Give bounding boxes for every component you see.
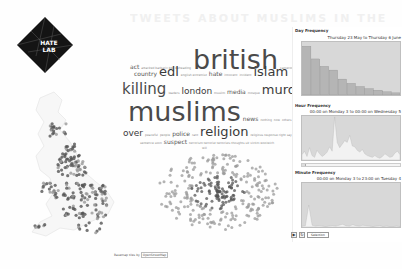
word[interactable]: people bbox=[160, 133, 170, 137]
reset-button[interactable]: ↻ bbox=[299, 232, 305, 238]
word[interactable]: english extremist bbox=[181, 73, 207, 77]
word[interactable]: others bbox=[282, 118, 292, 122]
chart-range: 00:00 on Monday 3 to 00:00 on Wednesday … bbox=[310, 109, 401, 114]
word[interactable]: innocent bbox=[224, 73, 237, 77]
word[interactable]: terrorism terrorist terrorists thoughts … bbox=[189, 141, 274, 145]
play-button[interactable]: ▶ bbox=[291, 232, 297, 238]
word[interactable]: nothing bbox=[260, 118, 271, 122]
word[interactable]: suspect bbox=[164, 138, 187, 145]
chart-title: Day Frequency bbox=[295, 28, 328, 33]
selection-button[interactable]: Selection bbox=[307, 232, 329, 238]
chart-range: Thursday 23 May to Thursday 6 June bbox=[328, 35, 401, 40]
word[interactable]: muslims bbox=[128, 96, 241, 127]
word[interactable]: news bbox=[243, 115, 259, 122]
playback-controls: ▶ ↻ Selection bbox=[291, 232, 329, 238]
word[interactable]: media bbox=[227, 88, 246, 95]
word[interactable]: muslim bbox=[214, 91, 225, 95]
openstreetmap-link[interactable]: OpenStreetMap bbox=[141, 252, 168, 258]
chart-title: Minute Frequency bbox=[295, 170, 335, 175]
word[interactable]: incident bbox=[239, 73, 251, 77]
london-dot-map[interactable] bbox=[140, 150, 290, 250]
word[interactable]: sentence soon bbox=[140, 141, 162, 145]
word[interactable]: peaceful bbox=[145, 133, 158, 137]
slider-handle[interactable] bbox=[302, 164, 306, 166]
word[interactable]: country bbox=[134, 70, 157, 77]
day-frequency-chart: Day Frequency Thursday 23 May to Thursda… bbox=[293, 27, 402, 105]
hour-range-slider[interactable] bbox=[301, 163, 401, 167]
chart-range: 00:00 on Monday 3 to 23:00 on Tuesday 4 bbox=[317, 176, 401, 181]
word[interactable]: mosque bbox=[248, 91, 260, 95]
svg-text:LAB: LAB bbox=[42, 46, 55, 53]
word[interactable]: rant bbox=[192, 133, 198, 137]
word[interactable]: edl bbox=[159, 64, 179, 79]
word[interactable]: now bbox=[274, 118, 280, 122]
page: TWEETS ABOUT MUSLIMS IN THE UK FOLLOWING… bbox=[0, 0, 402, 269]
word[interactable]: hate bbox=[209, 70, 223, 77]
hate-lab-logo[interactable]: HATE LAB bbox=[16, 16, 74, 74]
minute-plot[interactable] bbox=[301, 182, 401, 228]
word[interactable]: leaders bbox=[168, 91, 179, 95]
frequency-panel: Day Frequency Thursday 23 May to Thursda… bbox=[292, 27, 402, 242]
word[interactable]: over bbox=[123, 128, 143, 138]
word[interactable]: police bbox=[172, 130, 190, 137]
hour-plot[interactable] bbox=[301, 115, 401, 161]
word[interactable]: islam bbox=[253, 64, 288, 79]
word[interactable]: will bbox=[202, 146, 207, 150]
hour-frequency-chart: Hour Frequency 00:00 on Monday 3 to 00:0… bbox=[293, 103, 402, 173]
day-plot[interactable] bbox=[301, 41, 401, 96]
svg-text:HATE: HATE bbox=[40, 39, 57, 46]
word[interactable]: religion bbox=[200, 124, 248, 139]
word-cloud: act attacked barbaric bbc beheading brit… bbox=[122, 36, 294, 156]
minute-frequency-chart: Minute Frequency 00:00 on Monday 3 to 23… bbox=[293, 170, 402, 240]
uk-dot-map[interactable] bbox=[10, 90, 130, 240]
chart-title: Hour Frequency bbox=[295, 103, 331, 108]
word[interactable]: london bbox=[181, 86, 212, 96]
map-attribution: Basemap tiles by OpenStreetMap bbox=[114, 253, 168, 257]
